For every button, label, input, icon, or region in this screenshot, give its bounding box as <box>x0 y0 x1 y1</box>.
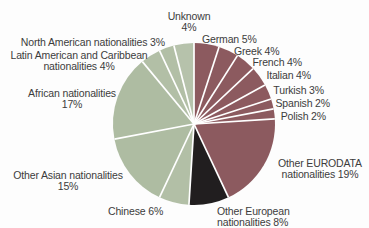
pie-chart-figure: Unknown4%German 5%Greek 4%French 4%Itali… <box>0 0 369 228</box>
pie-chart <box>0 0 369 228</box>
